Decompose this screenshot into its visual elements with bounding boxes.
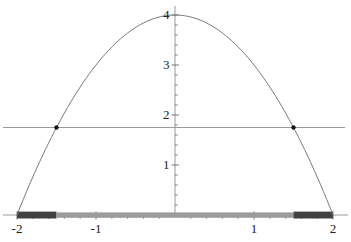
excluded-interval-bar [57, 212, 294, 217]
y-tick-label: 3 [163, 57, 170, 72]
tick-labels-group: -2-1121234 [12, 7, 337, 236]
solution-interval-bar [17, 212, 57, 219]
parabola-plot-svg: -2-1121234 [0, 0, 351, 242]
y-tick-label: 4 [163, 7, 170, 22]
highlight-segments-group [17, 212, 333, 219]
x-tick-label: 1 [251, 221, 258, 236]
x-tick-label: -1 [91, 221, 102, 236]
y-tick-label: 2 [163, 107, 170, 122]
x-tick-label: 2 [330, 221, 337, 236]
axes-group [3, 6, 348, 215]
x-tick-label: -2 [12, 221, 23, 236]
intersection-point [54, 125, 58, 129]
parabola-plot-figure: -2-1121234 [0, 0, 351, 242]
solution-interval-bar [294, 212, 334, 219]
intersection-point [291, 125, 295, 129]
y-tick-label: 1 [163, 157, 170, 172]
